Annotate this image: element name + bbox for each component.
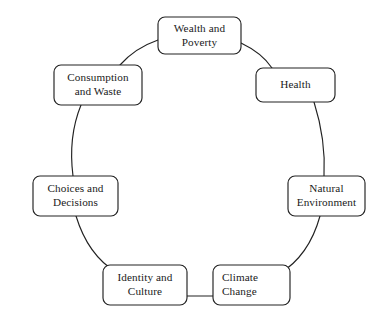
connector-wealth-to-health: [241, 43, 272, 68]
connector-choices-and-decisions-to-consumption-and-waste: [72, 105, 81, 176]
cycle-diagram: Wealth and Poverty Health Natural Enviro…: [0, 0, 378, 319]
node-label-health[interactable]: Health: [256, 68, 335, 102]
node-label-wealth-and-poverty[interactable]: Wealth and Poverty: [158, 17, 241, 54]
connector-consumption-and-waste-to-wealth: [120, 40, 158, 65]
connector-health-to-natural-environment: [314, 102, 324, 176]
node-label-natural-environment[interactable]: Natural Environment: [288, 176, 365, 216]
node-label-identity-and-culture[interactable]: Identity and Culture: [103, 265, 187, 305]
node-label-climate-change[interactable]: Climate Change: [213, 265, 290, 305]
connector-identity-and-culture-to-choices-and-decisions: [76, 216, 116, 272]
node-box-group: [33, 17, 365, 305]
node-label-consumption-and-waste[interactable]: Consumption and Waste: [54, 65, 142, 105]
node-label-choices-and-decisions[interactable]: Choices and Decisions: [33, 176, 118, 216]
